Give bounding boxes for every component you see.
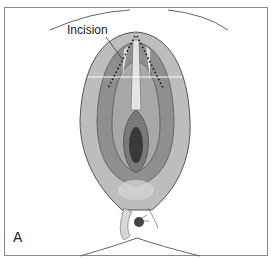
panel-label: A [13, 229, 22, 245]
anatomical-illustration [0, 0, 271, 259]
incision-label: Incision [67, 23, 108, 37]
